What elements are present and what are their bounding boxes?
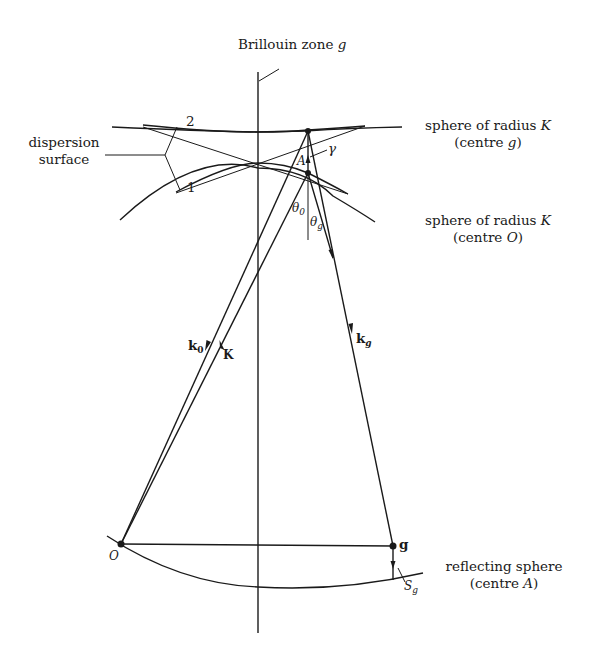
vector-k0 bbox=[121, 131, 308, 544]
figure-title: Brillouin zone g bbox=[238, 36, 346, 53]
branch-1-label: 1 bbox=[187, 179, 196, 196]
asymptote-b bbox=[176, 126, 365, 193]
gamma-arrowhead bbox=[306, 155, 311, 163]
sphere-centre-g-label: sphere of radius K (centre g) bbox=[408, 117, 568, 151]
Sg-label: Sg bbox=[404, 578, 418, 599]
reflecting-sphere-label: reflecting sphere (centre A) bbox=[434, 558, 574, 592]
point-O-label: O bbox=[109, 548, 119, 565]
sphere-centre-O-label: sphere of radius K (centre O) bbox=[408, 212, 568, 246]
kg-label: kg bbox=[356, 330, 372, 352]
brillouin-zone-tick bbox=[259, 69, 279, 81]
branch-2-label: 2 bbox=[186, 113, 195, 130]
K-label: K bbox=[223, 347, 233, 364]
theta-g-label: θg bbox=[310, 214, 323, 235]
reciprocal-vector-g bbox=[121, 544, 393, 546]
k0-label: k0 bbox=[188, 337, 204, 359]
title-text: Brillouin zone bbox=[238, 36, 338, 52]
point-g-label: g bbox=[399, 536, 408, 553]
title-var: g bbox=[338, 36, 347, 52]
asymptote-a bbox=[143, 127, 348, 194]
dispersion-surface-label: dispersion surface bbox=[22, 134, 106, 168]
sphere-centre-O bbox=[120, 164, 375, 222]
dispersion-brace-down bbox=[165, 155, 180, 190]
Sg-arrowhead bbox=[391, 561, 396, 569]
vector-kg bbox=[308, 131, 393, 546]
Kg-arrowhead bbox=[329, 249, 334, 259]
vector-K bbox=[121, 173, 308, 544]
k0-arrowhead bbox=[205, 340, 211, 351]
gamma-label: γ bbox=[328, 140, 336, 157]
point-A-label: A bbox=[297, 153, 306, 170]
theta-0-label: θ0 bbox=[292, 200, 305, 221]
dispersion-brace-up bbox=[165, 127, 177, 155]
